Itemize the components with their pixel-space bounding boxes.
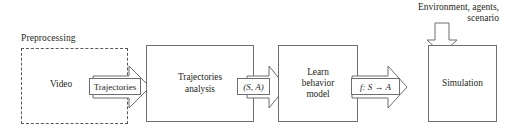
node-learn-line-3: model bbox=[302, 89, 335, 100]
annotation-environment-line-1: Environment, agents, bbox=[418, 2, 499, 13]
annotation-environment-line-2: scenario bbox=[418, 13, 499, 24]
node-learn-behavior-model: Learn behavior model bbox=[278, 45, 358, 122]
edge-label-state-action: (S, A) bbox=[237, 78, 270, 95]
node-analysis-line-1: Trajectories bbox=[178, 72, 222, 83]
node-analysis-line-2: analysis bbox=[178, 84, 222, 95]
node-video: Video bbox=[36, 79, 86, 89]
node-learn-line-2: behavior bbox=[302, 78, 335, 89]
node-simulation-line-1: Simulation bbox=[442, 78, 483, 89]
node-simulation: Simulation bbox=[428, 45, 497, 122]
node-learn-line-1: Learn bbox=[302, 67, 335, 78]
edge-label-trajectories: Trajectories bbox=[89, 78, 141, 95]
edge-label-policy-function: f: S → A bbox=[351, 78, 400, 95]
diagram-canvas: Preprocessing Video Trajectories Traject… bbox=[0, 0, 519, 137]
group-label-preprocessing: Preprocessing bbox=[21, 33, 76, 43]
annotation-environment: Environment, agents, scenario bbox=[418, 2, 499, 24]
